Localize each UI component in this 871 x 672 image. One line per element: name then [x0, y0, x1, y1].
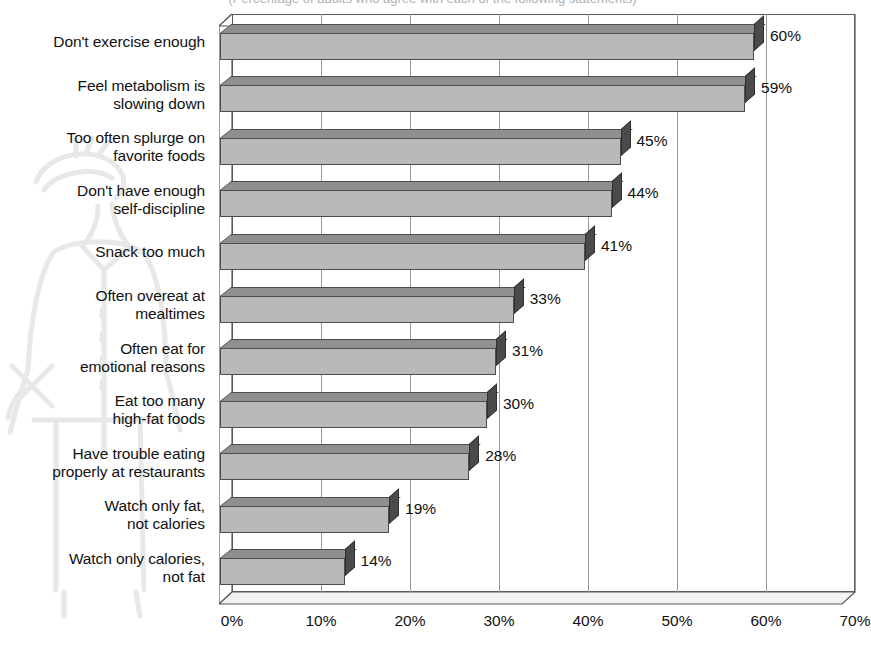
bar-front-face	[220, 401, 487, 428]
bar	[220, 33, 754, 60]
category-label-line: mealtimes	[0, 305, 205, 323]
bar-value-label: 60%	[770, 27, 801, 45]
category-label-line: properly at restaurants	[0, 463, 205, 481]
bar-value-label: 31%	[512, 342, 543, 360]
bar-top-face	[220, 181, 623, 190]
x-tick-label: 40%	[572, 612, 603, 630]
category-label-line: Watch only calories,	[0, 550, 205, 568]
category-label-line: slowing down	[0, 95, 205, 113]
gridline-70	[855, 14, 856, 592]
bar	[220, 296, 514, 323]
category-label: Watch only fat,not calories	[0, 497, 205, 533]
bar-top-face	[220, 129, 632, 138]
x-axis-ticks: 0%10%20%30%40%50%60%70%	[219, 612, 865, 638]
bar-front-face	[220, 138, 621, 165]
x-tick-label: 20%	[394, 612, 425, 630]
bar	[220, 453, 469, 480]
gridline-60	[766, 14, 767, 592]
bar-top-face	[220, 76, 757, 85]
bar-value-label: 45%	[637, 132, 668, 150]
category-label-line: Watch only fat,	[0, 497, 205, 515]
category-label-line: Have trouble eating	[0, 445, 205, 463]
category-label-line: not fat	[0, 568, 205, 586]
bar-top-face	[220, 549, 356, 558]
bar-top-face	[220, 234, 596, 243]
category-labels: Don't exercise enoughFeel metabolism iss…	[0, 14, 205, 599]
bar-value-label: 44%	[628, 184, 659, 202]
bar	[220, 506, 389, 533]
x-tick-label: 0%	[221, 612, 243, 630]
x-tick-label: 50%	[661, 612, 692, 630]
bar	[220, 243, 585, 270]
category-label-line: Too often splurge on	[0, 129, 205, 147]
category-label-line: Feel metabolism is	[0, 77, 205, 95]
plot-area: 60%59%45%44%41%33%31%30%28%19%14%	[219, 14, 856, 606]
bar-value-label: 19%	[405, 500, 436, 518]
category-label-line: Often eat for	[0, 340, 205, 358]
category-label-line: Don't have enough	[0, 182, 205, 200]
category-label: Often eat foremotional reasons	[0, 340, 205, 376]
category-label: Eat too manyhigh-fat foods	[0, 392, 205, 428]
bar-top-face	[220, 24, 766, 33]
bar-top-face	[220, 444, 481, 453]
bar-front-face	[220, 33, 754, 60]
category-label: Watch only calories,not fat	[0, 550, 205, 586]
category-label-line: Don't exercise enough	[0, 33, 205, 51]
category-label: Too often splurge onfavorite foods	[0, 129, 205, 165]
chart-title-clipped: (Percentage of adults who agree with eac…	[0, 0, 865, 9]
bar	[220, 190, 612, 217]
bar	[220, 138, 621, 165]
bar-top-face	[220, 392, 499, 401]
bar	[220, 401, 487, 428]
bar-value-label: 41%	[601, 237, 632, 255]
bar-front-face	[220, 243, 585, 270]
bar-top-face	[220, 339, 507, 348]
category-label-line: high-fat foods	[0, 410, 205, 428]
bar-value-label: 30%	[503, 395, 534, 413]
bar	[220, 558, 345, 585]
category-label-line: Eat too many	[0, 392, 205, 410]
bar-front-face	[220, 348, 496, 375]
category-label: Don't have enoughself-discipline	[0, 182, 205, 218]
bar-front-face	[220, 85, 745, 112]
bar-front-face	[220, 453, 469, 480]
category-label: Snack too much	[0, 243, 205, 261]
category-label: Feel metabolism isslowing down	[0, 77, 205, 113]
bar-value-label: 59%	[761, 79, 792, 97]
category-label: Don't exercise enough	[0, 33, 205, 51]
category-label-line: not calories	[0, 515, 205, 533]
bar-top-face	[220, 497, 401, 506]
x-tick-label: 10%	[305, 612, 336, 630]
bar-top-face	[220, 287, 525, 296]
bar-value-label: 33%	[530, 290, 561, 308]
category-label-line: Snack too much	[0, 243, 205, 261]
category-label-line: Often overeat at	[0, 287, 205, 305]
category-label-line: self-discipline	[0, 200, 205, 218]
bar-front-face	[220, 296, 514, 323]
bar	[220, 85, 745, 112]
category-label-line: emotional reasons	[0, 358, 205, 376]
bar-value-label: 28%	[485, 447, 516, 465]
bar	[220, 348, 496, 375]
x-tick-label: 70%	[839, 612, 870, 630]
x-tick-label: 30%	[483, 612, 514, 630]
x-tick-label: 60%	[750, 612, 781, 630]
category-label: Often overeat atmealtimes	[0, 287, 205, 323]
chart-title-text: (Percentage of adults who agree with eac…	[228, 0, 636, 6]
bar-front-face	[220, 190, 612, 217]
bar-front-face	[220, 558, 345, 585]
category-label: Have trouble eatingproperly at restauran…	[0, 445, 205, 481]
bar-value-label: 14%	[361, 552, 392, 570]
category-label-line: favorite foods	[0, 147, 205, 165]
bar-front-face	[220, 506, 389, 533]
